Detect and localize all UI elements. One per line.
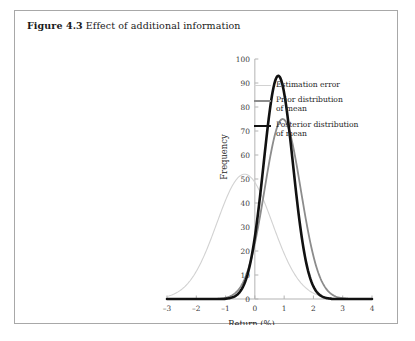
x-axis-tick-label: 3: [340, 304, 345, 313]
chart-legend: Estimation errorPrior distributionof mea…: [254, 80, 389, 144]
x-axis-tick-label: 2: [311, 304, 316, 313]
legend-item: Estimation error: [254, 80, 389, 89]
y-axis-tick-label: 70: [240, 127, 250, 136]
y-axis-tick-label: 100: [236, 55, 250, 64]
y-axis-title: Frequency: [219, 134, 229, 180]
legend-item-label: Prior distributionof mean: [276, 95, 343, 113]
y-axis-tick-label: 0: [245, 295, 250, 304]
chart-series-line: [167, 174, 372, 299]
x-axis-title: Return (%): [228, 319, 275, 325]
figure-card: Figure 4.3Effect of additional informati…: [14, 10, 398, 324]
y-axis-tick-label: 30: [240, 223, 250, 232]
legend-item-label: Posterior distributionof mean: [276, 120, 358, 138]
distribution-chart: –3–2–1012340102030405060708090100Return …: [15, 11, 399, 325]
x-axis-tick-label: –3: [163, 304, 172, 313]
legend-item: Posterior distributionof mean: [254, 120, 389, 138]
legend-item-label: Estimation error: [276, 80, 340, 89]
legend-line-icon: [254, 100, 271, 102]
y-axis-tick-label: 90: [240, 79, 250, 88]
y-axis-tick-label: 20: [240, 247, 250, 256]
legend-line-icon: [254, 85, 271, 86]
legend-item: Prior distributionof mean: [254, 95, 389, 113]
y-axis-tick-label: 60: [240, 151, 250, 160]
x-axis-tick-label: –2: [192, 304, 200, 313]
x-axis-tick-label: –1: [221, 304, 229, 313]
x-axis-tick-label: 0: [253, 304, 258, 313]
chart-plot-area: –3–2–1012340102030405060708090100Return …: [15, 11, 399, 325]
y-axis-tick-label: 80: [240, 103, 250, 112]
x-axis-tick-label: 1: [282, 304, 287, 313]
legend-line-icon: [254, 125, 271, 128]
chart-series-line: [167, 119, 372, 299]
y-axis-tick-label: 40: [240, 199, 250, 208]
x-axis-tick-label: 4: [370, 304, 375, 313]
